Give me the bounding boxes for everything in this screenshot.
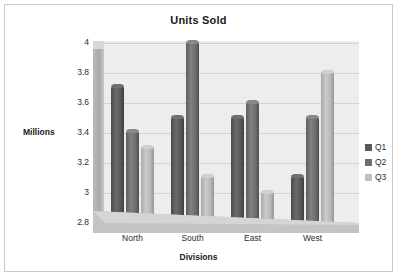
- bar-top-cap: [111, 84, 124, 88]
- bar-south-q3[interactable]: [201, 174, 214, 224]
- bar-top-cap: [141, 145, 154, 149]
- y-axis-tick-label: 3.2: [55, 157, 89, 167]
- bar-top-cap: [261, 190, 274, 194]
- legend-swatch-icon: [365, 159, 372, 166]
- legend-item-q1[interactable]: Q1: [365, 140, 399, 155]
- legend-swatch-icon: [365, 174, 372, 181]
- bar-top-cap: [126, 129, 139, 133]
- bar-east-q3[interactable]: [261, 190, 274, 223]
- bar-top-cap: [291, 174, 304, 178]
- y-axis-tick-label: 3: [55, 187, 89, 197]
- plot-area: [93, 41, 359, 237]
- y-axis-tick-label: 2.8: [55, 217, 89, 227]
- bar-top-cap: [186, 40, 199, 44]
- bar-top-cap: [306, 115, 319, 119]
- chart-container: Units Sold Millions Divisions 43.83.63.4…: [4, 4, 393, 272]
- legend-item-q2[interactable]: Q2: [365, 155, 399, 170]
- bar-north-q1[interactable]: [111, 84, 124, 224]
- y-axis-tick-label: 3.6: [55, 97, 89, 107]
- bar-east-q2[interactable]: [246, 100, 259, 223]
- chart-title: Units Sold: [5, 14, 392, 26]
- x-axis-label-east: East: [244, 233, 261, 243]
- legend: Q1Q2Q3: [365, 140, 399, 185]
- bar-north-q3[interactable]: [141, 145, 154, 223]
- bar-east-q1[interactable]: [231, 115, 244, 223]
- bar-south-q1[interactable]: [171, 115, 184, 223]
- bar-top-cap: [171, 115, 184, 119]
- bar-west-q2[interactable]: [306, 115, 319, 223]
- bar-top-cap: [201, 174, 214, 178]
- bar-top-cap: [246, 100, 259, 104]
- legend-label: Q3: [375, 173, 386, 182]
- bar-top-cap: [231, 115, 244, 119]
- x-axis-title: Divisions: [5, 252, 392, 262]
- bar-west-q3[interactable]: [321, 70, 334, 223]
- bar-north-q2[interactable]: [126, 129, 139, 224]
- y-axis-tick-label: 3.8: [55, 67, 89, 77]
- bar-south-q2[interactable]: [186, 40, 199, 223]
- legend-swatch-icon: [365, 144, 372, 151]
- bar-west-q1[interactable]: [291, 174, 304, 224]
- legend-label: Q1: [375, 143, 386, 152]
- y-axis-tick-label: 3.4: [55, 127, 89, 137]
- x-axis-label-west: West: [303, 233, 322, 243]
- y-axis-tick-labels: 43.83.63.43.232.8: [51, 41, 89, 237]
- x-axis-label-south: South: [181, 233, 203, 243]
- legend-item-q3[interactable]: Q3: [365, 170, 399, 185]
- y-axis-title: Millions: [23, 127, 55, 137]
- gridline: [104, 43, 359, 44]
- x-axis-category-labels: NorthSouthEastWest: [93, 233, 359, 247]
- y-axis-tick-label: 4: [55, 37, 89, 47]
- x-axis-label-north: North: [122, 233, 143, 243]
- legend-label: Q2: [375, 158, 386, 167]
- bar-top-cap: [321, 70, 334, 74]
